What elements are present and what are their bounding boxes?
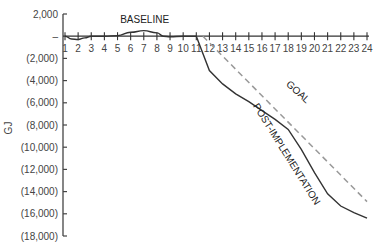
x-tick-label: 21 bbox=[322, 43, 334, 54]
x-tick-label: 7 bbox=[141, 43, 147, 54]
series-goal bbox=[203, 36, 367, 201]
y-tick-label: (2,000) bbox=[26, 53, 58, 64]
annotation-goal: GOAL bbox=[284, 78, 312, 105]
x-tick-label: 23 bbox=[348, 43, 360, 54]
y-axis-label: GJ bbox=[3, 122, 14, 135]
x-tick-label: 8 bbox=[154, 43, 160, 54]
y-tick-label: – bbox=[52, 31, 58, 42]
y-tick-label: (6,000) bbox=[26, 97, 58, 108]
x-tick-label: 3 bbox=[88, 43, 94, 54]
annotation-post-implementation: POST-IMPLEMENTATION bbox=[251, 101, 323, 206]
x-tick-label: 24 bbox=[361, 43, 373, 54]
x-tick-label: 1 bbox=[62, 43, 68, 54]
line-chart: 2,000–(2,000)(4,000)(6,000)(8,000)(10,00… bbox=[0, 0, 378, 247]
x-tick-label: 6 bbox=[128, 43, 134, 54]
y-tick-label: (18,000) bbox=[21, 231, 58, 242]
y-tick-label: (8,000) bbox=[26, 120, 58, 131]
x-tick-label: 10 bbox=[178, 43, 190, 54]
x-tick-label: 16 bbox=[256, 43, 268, 54]
y-tick-label: (10,000) bbox=[21, 142, 58, 153]
y-tick-label: (14,000) bbox=[21, 186, 58, 197]
y-tick-label: (4,000) bbox=[26, 75, 58, 86]
annotation-baseline: BASELINE bbox=[120, 14, 169, 25]
series-layer bbox=[65, 31, 367, 219]
y-tick-label: (12,000) bbox=[21, 164, 58, 175]
x-tick-label: 18 bbox=[283, 43, 295, 54]
x-tick-label: 14 bbox=[230, 43, 242, 54]
x-tick-label: 20 bbox=[309, 43, 321, 54]
y-tick-label: 2,000 bbox=[33, 9, 58, 20]
x-tick-label: 15 bbox=[243, 43, 255, 54]
x-tick-label: 22 bbox=[335, 43, 347, 54]
series-post-implementation bbox=[196, 36, 367, 218]
x-tick-label: 12 bbox=[204, 43, 216, 54]
x-tick-label: 19 bbox=[296, 43, 308, 54]
y-tick-label: (16,000) bbox=[21, 208, 58, 219]
x-tick-label: 4 bbox=[102, 43, 108, 54]
x-tick-label: 17 bbox=[270, 43, 282, 54]
y-axis: 2,000–(2,000)(4,000)(6,000)(8,000)(10,00… bbox=[21, 9, 67, 242]
x-tick-label: 2 bbox=[75, 43, 81, 54]
x-tick-label: 5 bbox=[115, 43, 121, 54]
x-tick-label: 9 bbox=[167, 43, 173, 54]
